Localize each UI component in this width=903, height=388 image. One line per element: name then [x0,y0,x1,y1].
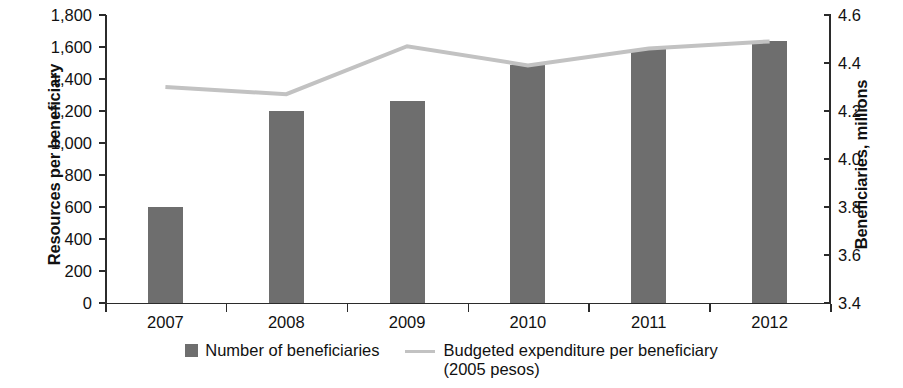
y-axis-right-tick-label: 3.6 [838,247,861,264]
legend-square-swatch-icon [185,344,198,357]
x-axis-label-2012: 2012 [725,313,815,332]
x-axis-label-2008: 2008 [241,313,331,332]
x-axis-tickmark [588,304,590,312]
y-axis-right-ticks: 3.43.63.84.04.24.44.6 [838,0,888,320]
legend-label-expenditure-line2: (2005 pesos) [443,360,717,379]
legend-label-beneficiaries: Number of beneficiaries [205,341,379,360]
y-axis-left-tick-label: 400 [64,231,92,248]
legend-label-expenditure-line1: Budgeted expenditure per beneficiary [443,341,717,359]
legend-item-beneficiaries: Number of beneficiaries [185,341,379,360]
chart-container: Resources per beneficiary Beneficiaries,… [0,0,903,388]
y-axis-right-tick-label: 4.6 [838,7,861,24]
x-axis-label-2011: 2011 [604,313,694,332]
legend-item-expenditure: Budgeted expenditure per beneficiary (20… [379,341,717,379]
y-axis-right-tick-label: 3.4 [838,295,861,312]
y-axis-left-tick-label: 1,800 [51,7,92,24]
x-axis-tickmark [226,304,228,312]
x-axis-tickmark [347,304,349,312]
y-axis-left-tick-label: 200 [64,263,92,280]
bar-2009 [390,101,425,303]
y-axis-left-tick-label: 0 [83,295,92,312]
y-axis-left-tick-label: 1,600 [51,39,92,56]
y-axis-left-ticks: 02004006008001,0001,2001,4001,6001,800 [30,0,92,320]
bar-2011 [631,49,666,303]
bar-2010 [510,65,545,303]
plot-area [105,15,830,303]
y-axis-right-tick-label: 4.0 [838,151,861,168]
x-axis-tickmark [709,304,711,312]
bar-2008 [269,111,304,303]
x-axis-label-2009: 2009 [362,313,452,332]
y-axis-right-tick-label: 4.2 [838,103,861,120]
y-axis-left-tick-label: 1,400 [51,71,92,88]
bar-2012 [752,41,787,303]
y-axis-left-tick-label: 1,200 [51,103,92,120]
line-series-layer [105,15,830,303]
budgeted-expenditure-line [165,41,769,94]
y-axis-right-tick-label: 4.4 [838,55,861,72]
y-axis-right-tick-label: 3.8 [838,199,861,216]
x-axis-label-2010: 2010 [483,313,573,332]
y-axis-left-tick-label: 800 [64,167,92,184]
x-axis-label-2007: 2007 [120,313,210,332]
x-axis-tickmark [468,304,470,312]
x-axis-tickmark [105,304,107,312]
chart-legend: Number of beneficiaries Budgeted expendi… [0,341,903,379]
y-axis-left-tick-label: 600 [64,199,92,216]
bar-2007 [148,207,183,303]
x-axis-tickmark [830,304,832,312]
y-axis-left-tick-label: 1,000 [51,135,92,152]
legend-line-swatch-icon [405,350,435,353]
